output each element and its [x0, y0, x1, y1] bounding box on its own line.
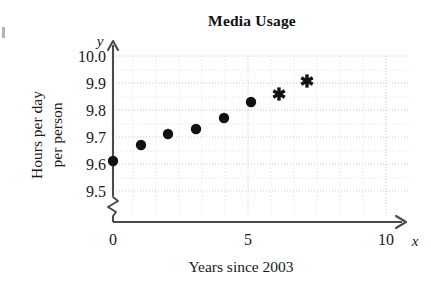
y-axis — [108, 41, 118, 222]
x-axis-variable-label: x — [411, 233, 419, 249]
x-tick-labels: 0 5 10 — [109, 231, 394, 248]
data-point-marker — [136, 140, 146, 150]
data-point-marker — [219, 113, 229, 123]
y-tick-label: 9.8 — [86, 102, 106, 119]
y-tick-label: 9.5 — [86, 183, 106, 200]
y-tick-label: 10.0 — [78, 48, 106, 65]
x-tick-label: 0 — [109, 231, 117, 248]
y-axis-title: Hours per day per person — [28, 91, 65, 179]
chart-title: Media Usage — [208, 12, 296, 29]
x-tick-label: 5 — [244, 231, 252, 248]
y-tick-label: 9.6 — [86, 156, 106, 173]
data-point-marker — [272, 87, 285, 100]
x-axis — [113, 216, 406, 228]
chart-figure: Media Usage — [0, 0, 431, 284]
y-tick-label: 9.9 — [86, 75, 106, 92]
series-observed-markers — [108, 97, 256, 166]
data-point-marker — [108, 156, 118, 166]
data-point-marker — [163, 129, 173, 139]
x-axis-title: Years since 2003 — [188, 258, 293, 275]
y-axis-break-symbol — [108, 197, 118, 216]
grid-minor-horizontal — [113, 70, 410, 178]
y-tick-labels: 10.0 9.9 9.8 9.7 9.6 9.5 — [78, 48, 106, 200]
data-point-marker — [300, 74, 313, 87]
x-tick-label: 10 — [378, 231, 394, 248]
data-point-marker — [246, 97, 256, 107]
y-axis-variable-label: y — [95, 33, 104, 49]
media-usage-scatter-chart: Media Usage — [0, 0, 431, 284]
y-axis-title-line-2: per person — [48, 102, 65, 167]
y-axis-title-line-1: Hours per day — [28, 91, 45, 179]
data-point-marker — [191, 124, 201, 134]
y-tick-label: 9.7 — [86, 129, 106, 146]
